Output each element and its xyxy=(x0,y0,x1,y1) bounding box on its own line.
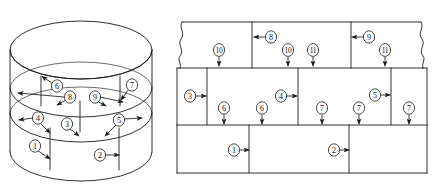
callout-label: 10 xyxy=(285,46,292,55)
callout-d7b: 7 xyxy=(353,102,364,114)
callout-d11a: 11 xyxy=(307,44,318,57)
figure-root: 1 2 3 4 5 6 7 xyxy=(0,0,442,186)
callout-label: 7 xyxy=(130,81,134,90)
callout-label: 3 xyxy=(188,92,192,101)
callout-5: 5 xyxy=(113,114,124,126)
callout-d4: 4 xyxy=(275,90,286,102)
developed-view: 1 2 3 4 5 6 xyxy=(177,22,427,173)
callout-d2: 2 xyxy=(328,144,339,156)
leader-5b xyxy=(105,125,116,136)
callout-label: 11 xyxy=(310,46,317,55)
callout-4: 4 xyxy=(32,112,43,124)
callout-d1: 1 xyxy=(228,144,239,156)
leader-4a xyxy=(19,118,33,120)
callout-d5: 5 xyxy=(369,89,380,101)
leader-4b xyxy=(40,123,50,133)
cylinder-view: 1 2 3 4 5 6 7 xyxy=(10,21,152,181)
callout-label: 7 xyxy=(357,104,361,113)
callout-d6a: 6 xyxy=(218,102,229,114)
callout-label: 5 xyxy=(373,91,377,100)
callout-label: 10 xyxy=(216,46,223,55)
callout-d3: 3 xyxy=(184,90,195,102)
callout-7: 7 xyxy=(126,79,137,91)
callout-label: 6 xyxy=(222,104,226,113)
leader-7 xyxy=(121,89,129,100)
callout-label: 4 xyxy=(36,114,40,123)
callout-d11b: 11 xyxy=(379,44,390,57)
callout-label: 11 xyxy=(382,46,389,55)
technical-figure: 1 2 3 4 5 6 7 xyxy=(0,0,442,186)
callout-label: 7 xyxy=(320,104,324,113)
break-line-top-left xyxy=(179,22,183,68)
callout-label: 9 xyxy=(367,33,371,42)
callout-label: 4 xyxy=(279,92,283,101)
callout-d8: 8 xyxy=(265,31,276,43)
leader-1 xyxy=(37,150,50,159)
leader-6 xyxy=(42,77,52,84)
callout-label: 7 xyxy=(407,104,411,113)
callout-d6b: 6 xyxy=(256,102,267,114)
callout-d9: 9 xyxy=(363,31,374,43)
callout-label: 6 xyxy=(260,104,264,113)
callout-d10b: 10 xyxy=(282,44,293,57)
callout-label: 3 xyxy=(65,120,69,129)
callout-d7a: 7 xyxy=(316,102,327,114)
callout-label: 8 xyxy=(269,33,273,42)
callout-label: 1 xyxy=(232,146,236,155)
callout-3: 3 xyxy=(61,118,72,130)
callout-label: 1 xyxy=(33,142,37,151)
callout-1: 1 xyxy=(29,140,40,152)
break-line-top-right xyxy=(420,22,424,68)
callout-2: 2 xyxy=(94,149,105,161)
callout-9: 9 xyxy=(89,91,100,103)
callout-label: 6 xyxy=(55,82,59,91)
leader-8b xyxy=(57,100,66,105)
callout-d10a: 10 xyxy=(213,44,224,57)
cylinder-bottom-edge xyxy=(10,152,152,181)
band-upper-bottom-edge xyxy=(10,88,152,117)
callout-6: 6 xyxy=(51,80,62,92)
callout-label: 2 xyxy=(332,146,336,155)
callout-d7c: 7 xyxy=(403,102,414,114)
callout-label: 8 xyxy=(68,93,72,102)
callout-8: 8 xyxy=(64,91,75,103)
callout-label: 2 xyxy=(98,151,102,160)
callout-label: 9 xyxy=(93,93,97,102)
leader-5a xyxy=(124,118,142,119)
callout-label: 5 xyxy=(117,116,121,125)
